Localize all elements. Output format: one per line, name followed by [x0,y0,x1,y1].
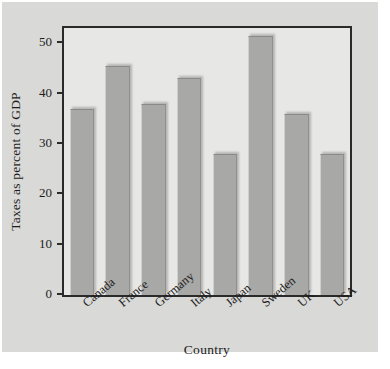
bar-slot [213,28,237,295]
bar-slot [141,28,165,295]
plot-area: 01020304050 [62,26,352,297]
y-axis-tick-label: 30 [39,135,52,151]
bar-slot [284,28,308,295]
x-axis-label: Country [62,342,352,358]
bar[interactable] [284,114,308,295]
bar[interactable] [177,78,201,295]
y-axis-tick-label: 40 [39,85,52,101]
y-axis-tick-label: 50 [39,34,52,50]
bar[interactable] [248,36,272,295]
bar[interactable] [213,154,237,295]
y-axis-tick-label: 10 [39,236,52,252]
y-axis-tick: 40 [57,92,64,94]
bar-slot [320,28,344,295]
y-axis-tick-label: 0 [46,286,53,302]
bar-slot [177,28,201,295]
y-axis-tick: 50 [57,41,64,43]
y-axis-tick: 30 [57,142,64,144]
bar[interactable] [141,104,165,295]
bar-slot [70,28,94,295]
bar[interactable] [70,109,94,295]
bar[interactable] [105,66,129,295]
y-axis-tick: 0 [57,293,64,295]
y-axis-tick-label: 20 [39,185,52,201]
y-axis-tick: 10 [57,243,64,245]
y-axis-tick: 20 [57,192,64,194]
y-axis-label: Taxes as percent of GDP [8,26,26,297]
bar-slot [248,28,272,295]
bar-slot [105,28,129,295]
figure: Taxes as percent of GDP 01020304050 Cana… [0,0,390,369]
bar[interactable] [320,154,344,295]
bars-layer [64,28,350,295]
